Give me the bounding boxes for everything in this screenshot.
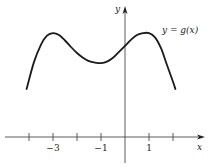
x-tick-label: 1 <box>146 143 152 153</box>
curve-g <box>27 33 176 89</box>
x-tick-label: −3 <box>46 143 60 153</box>
curve-label: y = g(x) <box>161 25 199 35</box>
y-axis-label: y <box>114 4 121 14</box>
x-tick-label: −1 <box>94 143 107 153</box>
x-axis-label: x <box>197 142 202 152</box>
x-tick-labels: −3−11 <box>46 143 152 153</box>
function-graph: −3−11 y = g(x) x y <box>0 0 212 168</box>
